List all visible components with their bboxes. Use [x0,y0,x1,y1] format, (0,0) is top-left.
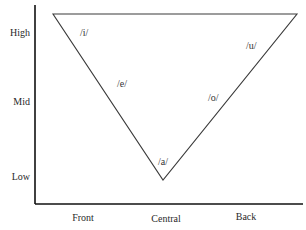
vowel-triangle [53,14,297,180]
vowel-triangle-diagram: High Mid Low Front Central Back /i/ /e/ … [0,0,306,230]
vowel-a: /a/ [158,157,168,167]
vowel-e: /e/ [117,79,127,89]
vowel-u: /u/ [246,41,257,51]
diagram-canvas [0,0,306,230]
x-label-front: Front [53,213,113,223]
vowel-i: /i/ [80,28,88,38]
y-label-high: High [0,28,30,38]
y-label-low: Low [0,172,30,182]
vowel-o: /o/ [208,93,219,103]
x-label-central: Central [136,214,196,224]
x-label-back: Back [216,212,276,222]
y-label-mid: Mid [0,97,30,107]
